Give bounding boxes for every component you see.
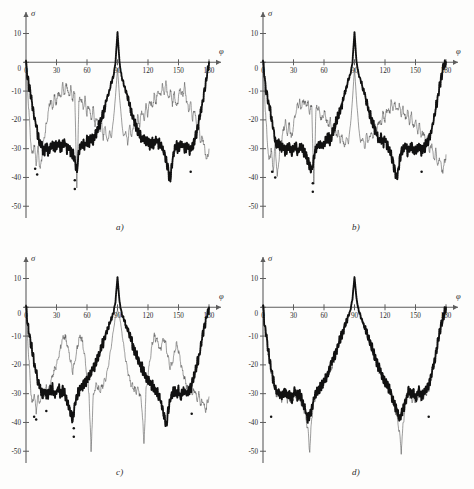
y-tick-label: -30 — [11, 390, 21, 398]
y-tick-label: -40 — [11, 419, 21, 427]
outlier-point — [312, 182, 315, 185]
x-tick-label: 150 — [410, 67, 421, 75]
outlier-point — [312, 191, 315, 194]
y-tick-label: 10 — [251, 30, 259, 38]
y-tick-label: -30 — [248, 145, 258, 153]
y-tick-label: -10 — [248, 88, 258, 96]
y-tick-label: 0 — [17, 65, 21, 73]
x-axis-label: φ — [456, 46, 461, 56]
y-tick-label: -30 — [248, 390, 258, 398]
x-tick-label: 30 — [53, 67, 61, 75]
y-tick-label: -40 — [248, 174, 258, 182]
panel-a: σφ030609012015018010-10-20-30-40-500 — [0, 0, 237, 244]
thick-measured-curve — [263, 32, 446, 179]
y-axis-label: σ — [31, 8, 36, 18]
outlier-point — [190, 413, 193, 416]
y-tick-label: 10 — [14, 30, 22, 38]
y-axis-label: σ — [268, 8, 273, 18]
outlier-point — [270, 415, 273, 418]
panel-label-d: d) — [352, 467, 360, 477]
outlier-point — [74, 179, 77, 182]
outlier-point — [35, 418, 38, 421]
panel-b: σφ030609012015018010-10-20-30-40-500 — [237, 0, 474, 244]
x-tick-label: 150 — [173, 67, 184, 75]
outlier-point — [73, 427, 76, 430]
outlier-point — [427, 415, 430, 418]
x-tick-label: 30 — [53, 312, 61, 320]
plot-canvas: σφ030609012015018010-10-20-30-40-500 — [0, 245, 237, 489]
thin-reference-curve — [263, 62, 446, 184]
panel-label-a: a) — [116, 222, 124, 232]
outlier-point — [36, 173, 39, 176]
panel-label-c: c) — [116, 467, 124, 477]
plot-canvas: σφ030609012015018010-10-20-30-40-500 — [237, 245, 474, 489]
thick-measured-curve — [26, 277, 209, 426]
x-tick-label: 90 — [351, 312, 359, 320]
y-tick-label: 0 — [254, 65, 258, 73]
x-tick-label: 120 — [143, 67, 154, 75]
y-tick-label: -20 — [11, 116, 21, 124]
four-panel-figure: σφ030609012015018010-10-20-30-40-500 σφ0… — [0, 0, 474, 489]
y-tick-label: -40 — [248, 419, 258, 427]
thin-reference-curve — [26, 62, 209, 188]
plot-canvas: σφ030609012015018010-10-20-30-40-500 — [237, 0, 474, 244]
y-tick-label: -50 — [11, 448, 21, 456]
outlier-point — [189, 170, 192, 173]
y-tick-label: -10 — [11, 333, 21, 341]
y-tick-label: 10 — [14, 275, 22, 283]
x-tick-label: 60 — [320, 67, 328, 75]
outlier-point — [74, 188, 77, 191]
thin-reference-curve — [26, 307, 209, 451]
y-tick-label: 0 — [17, 310, 21, 318]
x-tick-label: 120 — [380, 67, 391, 75]
outlier-point — [34, 168, 37, 171]
y-tick-label: 0 — [254, 310, 258, 318]
x-tick-label: 150 — [410, 312, 421, 320]
x-tick-label: 150 — [173, 312, 184, 320]
y-tick-label: -30 — [11, 145, 21, 153]
x-tick-label: 30 — [290, 67, 298, 75]
y-tick-label: -50 — [248, 203, 258, 211]
outlier-point — [274, 176, 277, 179]
y-axis-label: σ — [31, 253, 36, 263]
thin-reference-curve — [263, 278, 446, 455]
outlier-point — [33, 415, 36, 418]
plot-canvas: σφ030609012015018010-10-20-30-40-500 — [0, 0, 237, 244]
x-axis-label: φ — [219, 46, 224, 56]
y-tick-label: -50 — [11, 203, 21, 211]
x-tick-label: 30 — [290, 312, 298, 320]
x-axis-label: φ — [219, 291, 224, 301]
x-tick-label: 60 — [83, 67, 91, 75]
y-tick-label: -50 — [248, 448, 258, 456]
x-tick-label: 60 — [83, 312, 91, 320]
x-tick-label: 120 — [143, 312, 154, 320]
panel-c: σφ030609012015018010-10-20-30-40-500 — [0, 245, 237, 489]
y-tick-label: -10 — [248, 333, 258, 341]
outlier-point — [45, 410, 48, 413]
y-tick-label: 10 — [251, 275, 259, 283]
outlier-point — [73, 436, 76, 439]
x-tick-label: 120 — [380, 312, 391, 320]
outlier-point — [271, 170, 274, 173]
y-tick-label: -40 — [11, 174, 21, 182]
x-tick-label: 60 — [320, 312, 328, 320]
y-tick-label: -20 — [248, 361, 258, 369]
y-tick-label: -20 — [248, 116, 258, 124]
x-axis-label: φ — [456, 291, 461, 301]
outlier-point — [420, 170, 423, 173]
y-tick-label: -10 — [11, 88, 21, 96]
panel-d: σφ030609012015018010-10-20-30-40-500 — [237, 245, 474, 489]
y-axis-label: σ — [268, 253, 273, 263]
panel-label-b: b) — [352, 222, 360, 232]
y-tick-label: -20 — [11, 361, 21, 369]
